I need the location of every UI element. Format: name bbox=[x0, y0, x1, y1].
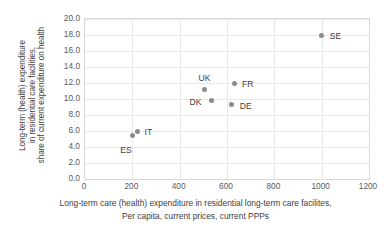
data-point-label: SE bbox=[330, 32, 341, 41]
y-axis-tick-label: 4.0 bbox=[68, 142, 80, 150]
data-point-label: DE bbox=[240, 102, 252, 111]
data-point[interactable] bbox=[319, 33, 324, 38]
x-axis-tick-label: 1000 bbox=[311, 182, 329, 190]
data-point-label: ES bbox=[120, 146, 131, 155]
y-axis-tick-label: 6.0 bbox=[68, 126, 80, 134]
y-axis-tick-label: 18.0 bbox=[64, 30, 80, 38]
x-axis-tick-label: 1200 bbox=[359, 182, 377, 190]
x-axis-tick-label: 200 bbox=[124, 182, 138, 190]
y-axis-tick-label: 14.0 bbox=[64, 62, 80, 70]
x-axis-title-line-1: Long-term care (health) expenditure in r… bbox=[0, 197, 391, 210]
data-point[interactable] bbox=[130, 133, 135, 138]
y-axis-title-line-1: Long-term (health) expenditure bbox=[18, 40, 26, 151]
y-axis-tick-label: 10.0 bbox=[64, 94, 80, 102]
gridline-vertical bbox=[227, 19, 228, 179]
x-axis-tick-label: 400 bbox=[172, 182, 186, 190]
y-axis-tick-label: 0.0 bbox=[68, 174, 80, 182]
y-axis-tick-labels: 0.02.04.06.08.010.012.014.016.018.020.0 bbox=[58, 0, 82, 190]
y-axis-tick-label: 12.0 bbox=[64, 78, 80, 86]
data-point[interactable] bbox=[202, 87, 207, 92]
x-axis-tick-label: 600 bbox=[219, 182, 233, 190]
gridline-vertical bbox=[274, 19, 275, 179]
data-point-label: FR bbox=[242, 80, 253, 89]
data-point[interactable] bbox=[209, 98, 214, 103]
data-point[interactable] bbox=[232, 81, 237, 86]
y-axis-tick-label: 8.0 bbox=[68, 110, 80, 118]
y-axis-tick-label: 16.0 bbox=[64, 46, 80, 54]
data-point[interactable] bbox=[229, 102, 234, 107]
x-axis-title-line-2: Per capita, current prices, current PPPs bbox=[0, 210, 391, 223]
y-axis-title-line-3: share of current expenditure on health bbox=[37, 27, 45, 163]
y-axis-title-line-2: in residential care facilities, bbox=[28, 47, 36, 143]
x-axis-tick-label: 800 bbox=[266, 182, 280, 190]
gridline-vertical bbox=[180, 19, 181, 179]
data-point-label: DK bbox=[190, 98, 202, 107]
data-point-label: IT bbox=[145, 128, 153, 137]
x-axis-tick-label: 0 bbox=[82, 182, 87, 190]
scatter-chart: Long-term (health) expenditure in reside… bbox=[0, 0, 391, 232]
plot-area: ESITUKDKDEFRSE bbox=[84, 18, 370, 180]
data-point-label: UK bbox=[199, 74, 211, 83]
y-axis-tick-label: 2.0 bbox=[68, 158, 80, 166]
data-point[interactable] bbox=[135, 129, 140, 134]
y-axis-title: Long-term (health) expenditure in reside… bbox=[6, 0, 58, 190]
y-axis-tick-label: 20.0 bbox=[64, 14, 80, 22]
x-axis-tick-labels: 020040060080010001200 bbox=[84, 182, 370, 196]
x-axis-title: Long-term care (health) expenditure in r… bbox=[0, 197, 391, 222]
gridline-vertical bbox=[132, 19, 133, 179]
gridline-vertical bbox=[322, 19, 323, 179]
